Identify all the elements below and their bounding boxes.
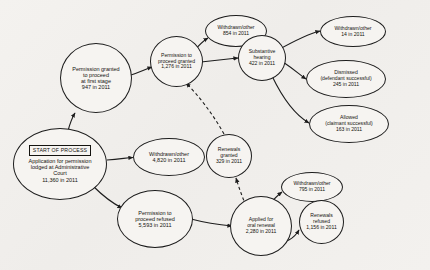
node-withdrawn-other-after-hearing[interactable]: Withdrawn/other 14 in 2011 [320, 16, 386, 47]
edge-application-to-permission-refused [93, 186, 122, 208]
node-renewals-granted[interactable]: Renewals granted 329 in 2011 [206, 134, 252, 178]
edge-hearing-to-dismissed [283, 62, 306, 79]
node-applied-for-oral-renewal[interactable]: Applied for oral renewal 2,280 in 2011 [230, 196, 292, 256]
node-application-lodged[interactable]: START OF PROCESS Application for permiss… [13, 128, 107, 200]
edge-application-to-withdrawn [107, 158, 133, 161]
node-line: 245 in 2011 [333, 82, 359, 88]
edge-renewals-granted-to-proceed-granted [186, 83, 224, 134]
node-line: 1,156 in 2011 [306, 225, 337, 231]
node-withdrawn-other-application[interactable]: Withdrawn/other 4,820 in 2011 [133, 138, 205, 176]
edge-proceed-granted-to-substantive-hearing [201, 58, 238, 62]
node-line: 1,276 in 2011 [161, 64, 192, 70]
edge-hearing-to-withdrawn [278, 31, 320, 50]
node-line: 163 in 2011 [336, 127, 362, 133]
node-substantive-hearing[interactable]: Substantive hearing 422 in 2011 [238, 35, 286, 81]
node-line: 14 in 2011 [341, 32, 364, 38]
node-permission-to-proceed-granted[interactable]: Permission to proceed granted 1,276 in 2… [150, 36, 203, 87]
node-permission-granted-first-stage[interactable]: Permission granted to proceed at first s… [60, 43, 132, 113]
node-permission-to-proceed-refused[interactable]: Permission to proceed refused 5,593 in 2… [117, 190, 193, 248]
node-withdrawn-other-after-renewal[interactable]: Withdrawn/other 795 in 2011 [281, 172, 343, 202]
node-line: 11,360 in 2011 [42, 177, 78, 183]
edge-hearing-to-allowed [272, 76, 309, 123]
node-line: 329 in 2011 [216, 159, 242, 165]
edge-first-stage-to-proceed-granted [131, 67, 152, 75]
node-line: 2,280 in 2011 [246, 229, 277, 235]
node-renewals-refused[interactable]: Renewals refused 1,156 in 2011 [299, 200, 344, 244]
start-of-process-badge: START OF PROCESS [29, 145, 91, 155]
flowchart-canvas: START OF PROCESS Application for permiss… [0, 0, 430, 270]
edge-refused-to-oral-renewal [191, 219, 232, 226]
node-allowed-claimant-successful[interactable]: Allowed (claimant successful) 163 in 201… [309, 105, 389, 143]
node-dismissed-defendant-successful[interactable]: Dismissed (defendant successful) 245 in … [306, 60, 386, 98]
node-line: 5,593 in 2011 [139, 222, 172, 228]
node-line: 422 in 2011 [249, 61, 275, 67]
node-line: 854 in 2011 [223, 31, 249, 37]
node-line: 4,820 in 2011 [153, 157, 186, 163]
node-line: 947 in 2011 [82, 84, 110, 90]
node-line: 795 in 2011 [299, 187, 325, 193]
